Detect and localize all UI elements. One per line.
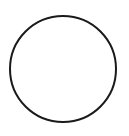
canvas — [0, 0, 129, 136]
circle-outline — [10, 16, 116, 122]
